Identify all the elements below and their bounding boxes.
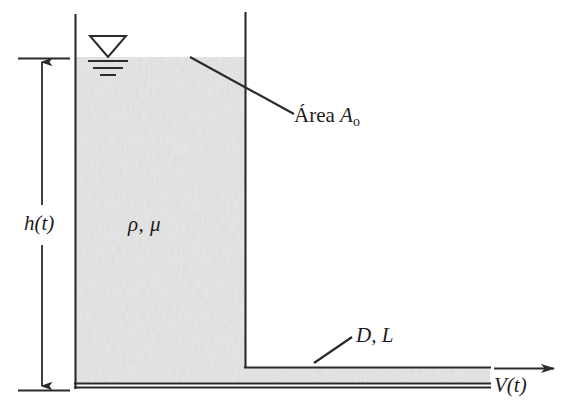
pipe-dimensions-label: D, L xyxy=(356,325,393,346)
diagram-canvas xyxy=(0,0,566,418)
velocity-label: V(t) xyxy=(494,375,527,396)
free-surface-triangle xyxy=(90,36,126,57)
height-label: h(t) xyxy=(24,213,54,234)
orifice-area-label: Área Ao xyxy=(294,105,360,129)
area-symbol-text: A xyxy=(340,103,353,127)
area-prefix-text: Área xyxy=(294,103,340,127)
leader-line-pipe xyxy=(314,337,352,363)
fluid-mechanics-tank-diagram: h(t) ρ, μ Área Ao D, L V(t) xyxy=(0,0,566,418)
fluid-properties-label: ρ, μ xyxy=(128,214,161,235)
area-subscript-text: o xyxy=(353,114,360,129)
